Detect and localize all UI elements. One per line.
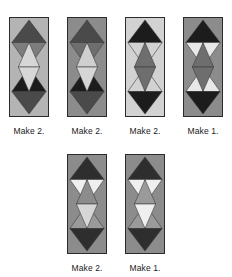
quilt-tile bbox=[67, 154, 107, 254]
quilt-tile bbox=[9, 17, 49, 117]
pattern-sheet: Make 2.Make 2.Make 2.Make 1. Make 2.Make… bbox=[0, 0, 232, 277]
quilt-tile bbox=[125, 154, 165, 254]
quilt-block: Make 2. bbox=[67, 17, 107, 137]
quilt-block: Make 1. bbox=[183, 17, 223, 137]
block-caption: Make 1. bbox=[130, 263, 161, 274]
quilt-tile bbox=[183, 17, 223, 117]
block-caption: Make 1. bbox=[188, 126, 219, 137]
quilt-block: Make 1. bbox=[125, 154, 165, 274]
block-caption: Make 2. bbox=[72, 126, 103, 137]
quilt-block: Make 2. bbox=[9, 17, 49, 137]
block-caption: Make 2. bbox=[72, 263, 103, 274]
quilt-tile bbox=[125, 17, 165, 117]
quilt-block: Make 2. bbox=[125, 17, 165, 137]
block-caption: Make 2. bbox=[14, 126, 45, 137]
block-caption: Make 2. bbox=[130, 126, 161, 137]
quilt-block: Make 2. bbox=[67, 154, 107, 274]
quilt-tile bbox=[67, 17, 107, 117]
block-row-bottom: Make 2.Make 1. bbox=[0, 137, 232, 274]
block-row-top: Make 2.Make 2.Make 2.Make 1. bbox=[0, 0, 232, 137]
